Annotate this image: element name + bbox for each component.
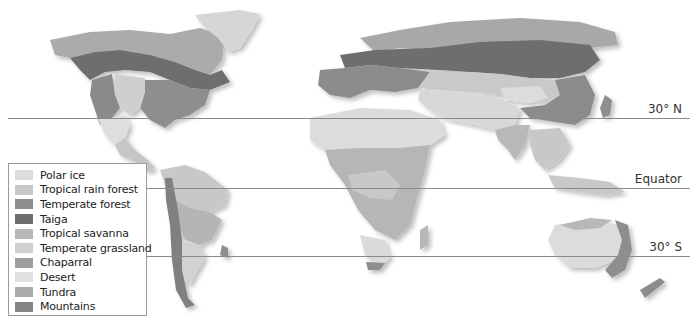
legend-item-tropical-savanna: Tropical savanna	[15, 226, 146, 241]
europe-temperate-forest	[318, 65, 430, 98]
swatch-tundra	[15, 287, 33, 297]
legend-item-tundra: Tundra	[15, 285, 146, 300]
legend-label: Tundra	[40, 286, 76, 299]
africa-desert	[310, 108, 445, 150]
latitude-label-30s: 30° S	[649, 240, 682, 254]
swatch-temperate-grassland	[15, 243, 33, 253]
africa-chaparral	[366, 262, 385, 270]
swatch-tropical-rain-forest	[15, 185, 33, 195]
legend-item-temperate-grassland: Temperate grassland	[15, 241, 146, 256]
latitude-label-30n: 30° N	[648, 102, 682, 116]
new-zealand	[640, 278, 665, 298]
swatch-taiga	[15, 214, 33, 224]
swatch-tropical-savanna	[15, 229, 33, 239]
legend-label: Taiga	[40, 213, 67, 226]
madagascar	[420, 225, 428, 250]
biome-legend: Polar ice Tropical rain forest Temperate…	[8, 163, 147, 316]
legend-item-taiga: Taiga	[15, 212, 146, 227]
japan	[600, 95, 612, 118]
swatch-desert	[15, 272, 33, 282]
legend-item-polar-ice: Polar ice	[15, 168, 146, 183]
southeast-asia-rainforest	[530, 128, 570, 170]
legend-item-desert: Desert	[15, 270, 146, 285]
legend-label: Desert	[40, 271, 75, 284]
legend-item-temperate-forest: Temperate forest	[15, 197, 146, 212]
legend-label: Polar ice	[40, 169, 85, 182]
latitude-label-equator: Equator	[635, 172, 682, 186]
legend-label: Tropical rain forest	[40, 183, 138, 196]
swatch-temperate-forest	[15, 199, 33, 209]
swatch-polar-ice	[15, 170, 33, 180]
legend-label: Tropical savanna	[40, 227, 129, 240]
indonesia	[548, 175, 625, 195]
swatch-chaparral	[15, 258, 33, 268]
legend-label: Chaparral	[40, 256, 92, 269]
legend-label: Temperate grassland	[40, 242, 152, 255]
india-savanna	[495, 125, 530, 160]
north-america-grassland	[115, 74, 145, 115]
latitude-line-30n	[8, 118, 690, 119]
swatch-mountains	[15, 302, 33, 312]
legend-item-mountains: Mountains	[15, 299, 146, 314]
legend-item-chaparral: Chaparral	[15, 256, 146, 271]
legend-label: Mountains	[40, 300, 95, 313]
legend-item-tropical-rain-forest: Tropical rain forest	[15, 183, 146, 198]
legend-label: Temperate forest	[40, 198, 130, 211]
